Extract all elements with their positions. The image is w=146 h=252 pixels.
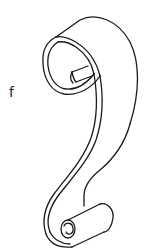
bottom-roll — [46, 204, 113, 247]
scroll-ribbon-illustration — [0, 0, 146, 252]
top-curl — [43, 17, 138, 124]
